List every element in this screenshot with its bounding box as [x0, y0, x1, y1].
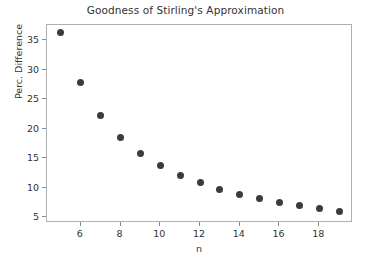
- x-tick-label: 12: [184, 228, 214, 239]
- data-point: [296, 202, 303, 209]
- x-tick-mark: [199, 222, 200, 226]
- data-point: [236, 191, 243, 198]
- data-point: [137, 150, 144, 157]
- y-tick-label: 20: [0, 122, 39, 133]
- y-tick-mark: [42, 98, 46, 99]
- x-tick-mark: [80, 222, 81, 226]
- y-tick-mark: [42, 128, 46, 129]
- data-point: [97, 112, 104, 119]
- y-tick-label: 30: [0, 63, 39, 74]
- data-point: [276, 199, 283, 206]
- data-point: [256, 195, 263, 202]
- data-point: [177, 172, 184, 179]
- y-tick-mark: [42, 187, 46, 188]
- data-point: [117, 134, 124, 141]
- data-point: [316, 205, 323, 212]
- x-axis-label: n: [46, 243, 352, 254]
- x-tick-label: 10: [144, 228, 174, 239]
- y-tick-label: 15: [0, 152, 39, 163]
- y-tick-label: 25: [0, 93, 39, 104]
- x-tick-mark: [278, 222, 279, 226]
- x-tick-label: 6: [65, 228, 95, 239]
- x-tick-label: 8: [105, 228, 135, 239]
- figure-canvas: Goodness of Stirling's Approximation Per…: [0, 0, 371, 267]
- data-point: [157, 162, 164, 169]
- x-tick-mark: [239, 222, 240, 226]
- data-point: [57, 29, 64, 36]
- data-point: [336, 208, 343, 215]
- plot-area: [46, 24, 352, 222]
- y-tick-mark: [42, 69, 46, 70]
- data-point: [77, 79, 84, 86]
- y-tick-mark: [42, 157, 46, 158]
- y-tick-label: 35: [0, 34, 39, 45]
- x-tick-mark: [159, 222, 160, 226]
- y-tick-label: 5: [0, 211, 39, 222]
- x-tick-label: 14: [224, 228, 254, 239]
- x-tick-label: 16: [263, 228, 293, 239]
- data-point: [216, 186, 223, 193]
- x-tick-label: 18: [303, 228, 333, 239]
- x-tick-mark: [120, 222, 121, 226]
- y-tick-mark: [42, 216, 46, 217]
- data-point: [197, 179, 204, 186]
- y-tick-mark: [42, 39, 46, 40]
- x-tick-mark: [318, 222, 319, 226]
- y-tick-label: 10: [0, 181, 39, 192]
- chart-title: Goodness of Stirling's Approximation: [0, 4, 371, 16]
